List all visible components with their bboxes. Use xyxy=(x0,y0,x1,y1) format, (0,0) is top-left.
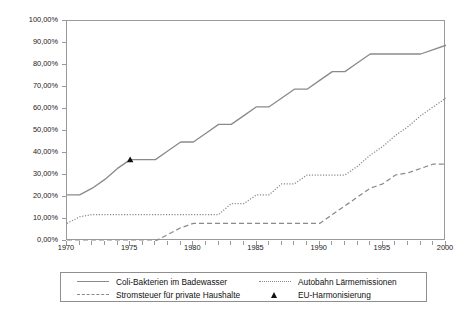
legend-label: Autobahn Lärmemissionen xyxy=(298,277,397,287)
x-tick-mark xyxy=(142,241,143,245)
x-tick-mark xyxy=(281,241,282,245)
legend-column-left: Coli-Bakterien im BadewasserStromsteuer … xyxy=(75,275,240,302)
x-tick-label: 2000 xyxy=(437,244,453,252)
x-tick-mark xyxy=(268,241,269,245)
series-line xyxy=(67,98,446,223)
legend-column-right: Autobahn LärmemissionenEU-Harmonisierung xyxy=(257,275,397,302)
x-tick-mark xyxy=(167,241,168,245)
x-tick-mark xyxy=(357,241,358,245)
x-tick-mark xyxy=(230,241,231,245)
legend-item[interactable]: Coli-Bakterien im Badewasser xyxy=(75,276,240,288)
chart-root: 0,00%10,00%20,00%30,00%40,00%50,00%60,00… xyxy=(0,0,475,311)
legend-label: Stromsteuer für private Haushalte xyxy=(116,290,240,300)
x-tick-label: 1975 xyxy=(121,244,137,252)
legend: Coli-Bakterien im BadewasserStromsteuer … xyxy=(60,272,427,302)
legend-line-swatch xyxy=(75,277,111,287)
legend-item[interactable]: EU-Harmonisierung xyxy=(257,289,397,301)
series-canvas xyxy=(67,21,446,241)
x-tick-label: 1980 xyxy=(184,244,200,252)
x-tick-mark xyxy=(344,241,345,245)
legend-item[interactable]: Stromsteuer für private Haushalte xyxy=(75,289,240,301)
x-tick-label: 1990 xyxy=(310,244,326,252)
x-tick-mark xyxy=(91,241,92,245)
x-tick-mark xyxy=(432,241,433,245)
line-swatch-dotted xyxy=(259,281,291,282)
x-tick-mark xyxy=(407,241,408,245)
legend-label: Coli-Bakterien im Badewasser xyxy=(116,277,227,287)
x-tick-mark xyxy=(243,241,244,245)
series-line xyxy=(67,45,446,195)
x-tick-mark xyxy=(154,241,155,245)
x-tick-label: 1985 xyxy=(247,244,263,252)
x-tick-mark xyxy=(205,241,206,245)
legend-item[interactable]: Autobahn Lärmemissionen xyxy=(257,276,397,288)
series-line xyxy=(67,164,446,241)
legend-triangle-icon xyxy=(257,290,293,300)
x-tick-mark xyxy=(293,241,294,245)
x-tick-mark xyxy=(420,241,421,245)
x-tick-label: 1995 xyxy=(374,244,390,252)
x-tick-mark xyxy=(180,241,181,245)
x-tick-label: 1970 xyxy=(58,244,74,252)
plot-area xyxy=(66,20,445,240)
x-tick-mark xyxy=(369,241,370,245)
line-swatch-dashed xyxy=(77,294,109,295)
legend-line-swatch xyxy=(257,277,293,287)
legend-label: EU-Harmonisierung xyxy=(298,290,371,300)
x-tick-mark xyxy=(117,241,118,245)
triangle-icon xyxy=(271,292,277,298)
x-tick-mark xyxy=(331,241,332,245)
x-tick-mark xyxy=(306,241,307,245)
x-tick-mark xyxy=(79,241,80,245)
x-tick-mark xyxy=(104,241,105,245)
legend-line-swatch xyxy=(75,290,111,300)
x-tick-mark xyxy=(394,241,395,245)
line-swatch-solid xyxy=(77,281,109,282)
x-tick-mark xyxy=(218,241,219,245)
